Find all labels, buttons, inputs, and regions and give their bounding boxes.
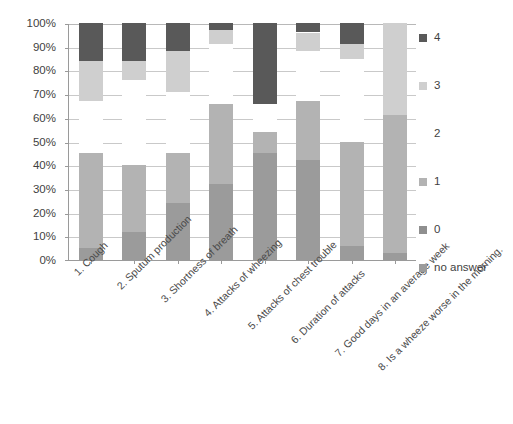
legend-item[interactable]: no answer [419, 262, 487, 274]
legend-label: 3 [434, 80, 440, 92]
bar-segment[interactable] [209, 184, 233, 260]
y-axis-tick-label: 40% [33, 160, 56, 172]
bar-group[interactable] [79, 24, 103, 260]
bar-segment[interactable] [209, 44, 233, 103]
y-axis-tick-label: 60% [33, 113, 56, 125]
bar-group[interactable] [296, 24, 320, 260]
bar-segment[interactable] [166, 92, 190, 154]
bar-segment[interactable] [340, 59, 364, 142]
bar-segment[interactable] [79, 101, 103, 153]
x-tick-mark [265, 260, 266, 264]
bar-segment[interactable] [296, 33, 320, 52]
y-axis-tick-label: 30% [33, 184, 56, 196]
bar-segment[interactable] [166, 51, 190, 91]
legend-item[interactable]: 4 [419, 32, 440, 44]
bar-group[interactable] [253, 24, 277, 260]
y-axis-tick-label: 10% [33, 231, 56, 243]
plot-area [68, 24, 416, 261]
bar-segment[interactable] [209, 104, 233, 185]
legend-label: 2 [434, 128, 440, 140]
x-axis-tick-label: 6. Duration of attacks [289, 267, 367, 345]
bar-segment[interactable] [340, 23, 364, 44]
x-tick-mark [221, 260, 222, 264]
x-tick-mark [352, 260, 353, 264]
bar-segment[interactable] [209, 23, 233, 30]
bar-group[interactable] [383, 24, 407, 260]
bar-segment[interactable] [296, 51, 320, 101]
legend-item[interactable]: 2 [419, 128, 440, 140]
bar-segment[interactable] [79, 153, 103, 248]
legend-label: no answer [434, 262, 487, 274]
bar-segment[interactable] [296, 101, 320, 160]
bar-segment[interactable] [340, 246, 364, 260]
legend-item[interactable]: 3 [419, 80, 440, 92]
legend-swatch-icon [419, 226, 427, 234]
x-tick-mark [91, 260, 92, 264]
bar-group[interactable] [166, 24, 190, 260]
legend-swatch-icon [419, 130, 427, 138]
bar-segment[interactable] [253, 153, 277, 260]
chart-legend: 43210no answer [419, 24, 511, 264]
x-tick-mark [178, 260, 179, 264]
bar-segment[interactable] [122, 165, 146, 231]
bar-segment[interactable] [79, 23, 103, 61]
y-axis-tick-label: 90% [33, 42, 56, 54]
legend-swatch-icon [419, 34, 427, 42]
gridline-0 [69, 260, 416, 261]
bar-group[interactable] [340, 24, 364, 260]
bar-segment[interactable] [122, 232, 146, 260]
y-axis-tick-label: 0% [39, 255, 56, 267]
bar-segment[interactable] [209, 30, 233, 44]
legend-swatch-icon [419, 178, 427, 186]
bar-segment[interactable] [340, 44, 364, 58]
bar-segment[interactable] [253, 23, 277, 104]
y-axis-labels: 0%10%20%30%40%50%60%70%80%90%100% [0, 0, 64, 424]
bar-segment[interactable] [340, 142, 364, 246]
y-axis-tick-label: 70% [33, 89, 56, 101]
bar-segment[interactable] [79, 248, 103, 260]
bar-segment[interactable] [296, 23, 320, 32]
bar-segment[interactable] [383, 115, 407, 252]
y-tick-mark-0 [65, 260, 69, 261]
legend-swatch-icon [419, 264, 427, 272]
bar-segment[interactable] [383, 23, 407, 115]
bar-group[interactable] [209, 24, 233, 260]
bar-segment[interactable] [122, 61, 146, 80]
legend-item[interactable]: 1 [419, 176, 440, 188]
bar-segment[interactable] [253, 104, 277, 132]
bar-segment[interactable] [296, 160, 320, 260]
legend-label: 1 [434, 176, 440, 188]
bar-segment[interactable] [253, 132, 277, 153]
legend-label: 0 [434, 224, 440, 236]
bar-segment[interactable] [122, 23, 146, 61]
y-axis-tick-label: 100% [27, 18, 56, 30]
legend-swatch-icon [419, 82, 427, 90]
bars-layer [69, 24, 416, 260]
y-axis-tick-label: 20% [33, 208, 56, 220]
bar-segment[interactable] [122, 80, 146, 165]
y-axis-tick-label: 50% [33, 137, 56, 149]
x-tick-mark [395, 260, 396, 264]
y-axis-tick-label: 80% [33, 65, 56, 77]
x-tick-mark [308, 260, 309, 264]
bar-segment[interactable] [166, 153, 190, 203]
stacked-bar-chart: 0%10%20%30%40%50%60%70%80%90%100% 1. Cou… [0, 0, 513, 424]
bar-segment[interactable] [166, 23, 190, 51]
bar-segment[interactable] [79, 61, 103, 101]
x-tick-mark [134, 260, 135, 264]
bar-segment[interactable] [166, 203, 190, 260]
legend-label: 4 [434, 32, 440, 44]
bar-segment[interactable] [383, 253, 407, 260]
legend-item[interactable]: 0 [419, 224, 440, 236]
bar-group[interactable] [122, 24, 146, 260]
